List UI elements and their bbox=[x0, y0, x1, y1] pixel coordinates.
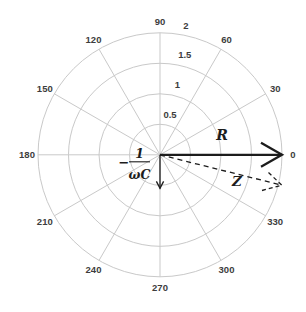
vector-z-label: Z bbox=[231, 173, 243, 189]
vector-r bbox=[160, 143, 282, 167]
polar-plot-figure: 03060901201501802102402703003300.511.52 … bbox=[0, 0, 306, 312]
angle-tick-label: 30 bbox=[270, 83, 281, 94]
angle-tick-label: 150 bbox=[37, 83, 53, 94]
angle-tick-label: 60 bbox=[221, 34, 232, 45]
angle-tick-label: 330 bbox=[267, 216, 283, 227]
vector-labels: R Z − 1 ωC bbox=[119, 127, 244, 189]
radial-tick-label: 2 bbox=[183, 20, 188, 31]
fraction-denominator: ωC bbox=[129, 167, 151, 182]
fraction-numerator: 1 bbox=[135, 146, 144, 161]
angle-tick-label: 300 bbox=[219, 264, 235, 275]
angle-tick-label: 210 bbox=[37, 216, 53, 227]
grid-spoke bbox=[160, 94, 266, 155]
angle-tick-label: 240 bbox=[86, 264, 102, 275]
grid-spoke bbox=[160, 155, 266, 216]
angle-tick-label: 90 bbox=[155, 16, 166, 27]
vector-r-label: R bbox=[215, 127, 228, 143]
grid-spoke bbox=[160, 155, 221, 261]
grid-spoke bbox=[54, 155, 160, 216]
angle-tick-label: 0 bbox=[290, 149, 295, 160]
angle-tick-label: 180 bbox=[19, 149, 35, 160]
polar-chart: 03060901201501802102402703003300.511.52 … bbox=[0, 0, 306, 312]
grid-spoke bbox=[99, 49, 160, 155]
radial-tick-label: 1.5 bbox=[178, 49, 192, 60]
angle-tick-label: 120 bbox=[86, 34, 102, 45]
grid-spoke bbox=[54, 94, 160, 155]
radial-tick-label: 0.5 bbox=[163, 109, 177, 120]
angle-tick-label: 270 bbox=[152, 282, 168, 293]
grid-spoke bbox=[160, 49, 221, 155]
vectors bbox=[156, 143, 282, 191]
radial-tick-label: 1 bbox=[175, 79, 181, 90]
